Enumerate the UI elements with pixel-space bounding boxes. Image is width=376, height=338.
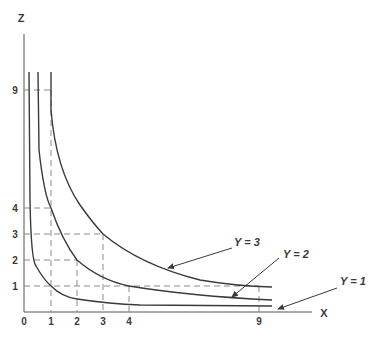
arrow-y3 <box>168 248 232 268</box>
x-tick-2: 2 <box>74 316 80 327</box>
x-tick-4: 4 <box>126 316 132 327</box>
curve-y1 <box>29 72 272 306</box>
x-axis-label: X <box>320 307 328 319</box>
z-tick-4: 4 <box>12 203 18 214</box>
isoquant-chart: Z X 0 1 2 3 4 9 1 2 3 4 9 Y = 3 Y = 2 Y … <box>0 0 376 338</box>
arrow-y1 <box>278 288 337 309</box>
annotation-y2: Y = 2 <box>283 248 309 260</box>
reference-lines <box>24 90 259 312</box>
x-tick-3: 3 <box>100 316 106 327</box>
x-tick-1: 1 <box>48 316 54 327</box>
z-tick-2: 2 <box>12 255 18 266</box>
arrow-y2 <box>232 258 279 297</box>
x-tick-9: 9 <box>256 316 262 327</box>
curve-y3 <box>51 72 272 287</box>
annotation-y1: Y = 1 <box>340 275 366 287</box>
annotation-y3: Y = 3 <box>234 236 260 248</box>
z-axis-label: Z <box>18 12 25 24</box>
z-tick-3: 3 <box>12 229 18 240</box>
z-tick-9: 9 <box>12 85 18 96</box>
z-tick-1: 1 <box>12 281 18 292</box>
origin-label: 0 <box>21 316 27 327</box>
